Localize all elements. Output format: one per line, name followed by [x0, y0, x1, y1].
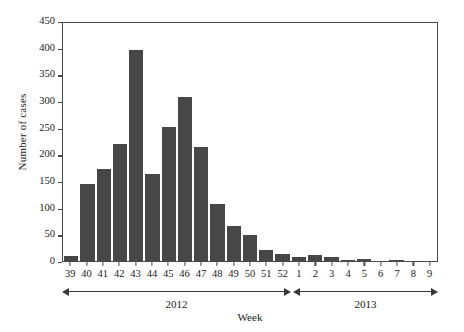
x-tick-label: 49: [228, 268, 239, 279]
bar: [177, 97, 193, 261]
x-tick-mark: [282, 262, 283, 266]
x-tick-label: 40: [81, 268, 92, 279]
x-tick-mark: [233, 262, 234, 266]
bar-slot: [79, 23, 95, 261]
y-tick: 50: [0, 235, 62, 236]
bar-slot: [96, 23, 112, 261]
x-tick-mark: [266, 262, 267, 266]
bar-slot: [323, 23, 339, 261]
x-tick: 5: [356, 262, 372, 284]
x-tick: 49: [225, 262, 241, 284]
bar-slot: [388, 23, 404, 261]
x-tick-mark: [364, 262, 365, 266]
x-tick-label: 47: [196, 268, 207, 279]
plot-area: [62, 22, 438, 262]
bar: [112, 144, 128, 261]
bar-slot: [421, 23, 437, 261]
y-tick: 0: [0, 262, 62, 263]
year-label-2013: 2013: [293, 298, 438, 310]
bar: [274, 254, 290, 261]
span-line: [299, 291, 432, 292]
bar-slot: [63, 23, 79, 261]
bar-slot: [242, 23, 258, 261]
x-tick: 2: [307, 262, 323, 284]
bar: [128, 50, 144, 261]
bar: [193, 147, 209, 261]
x-tick: 6: [373, 262, 389, 284]
x-tick-mark: [396, 262, 397, 266]
x-tick: 9: [422, 262, 438, 284]
y-tick: 100: [0, 209, 62, 210]
bar: [323, 257, 339, 261]
bar-slot: [226, 23, 242, 261]
x-tick-label: 41: [98, 268, 109, 279]
x-tick-mark: [249, 262, 250, 266]
x-tick-label: 50: [245, 268, 256, 279]
bar-slot: [356, 23, 372, 261]
bar-slot: [274, 23, 290, 261]
x-tick-label: 42: [114, 268, 125, 279]
x-tick: 43: [127, 262, 143, 284]
arrow-right-icon: [284, 288, 291, 296]
bar-slot: [144, 23, 160, 261]
x-tick-label: 44: [147, 268, 158, 279]
x-tick: 39: [62, 262, 78, 284]
y-tick: 450: [0, 22, 62, 23]
x-tick: 3: [324, 262, 340, 284]
x-tick-label: 48: [212, 268, 223, 279]
x-tick: 42: [111, 262, 127, 284]
y-tick: 300: [0, 102, 62, 103]
x-tick-mark: [86, 262, 87, 266]
bar-slot: [340, 23, 356, 261]
bar: [209, 204, 225, 261]
y-tick: 150: [0, 182, 62, 183]
x-tick: 40: [78, 262, 94, 284]
bar: [258, 250, 274, 261]
bar-slot: [128, 23, 144, 261]
y-tick-label: 300: [39, 95, 55, 106]
x-tick-label: 4: [345, 268, 350, 279]
y-tick-label: 50: [45, 228, 56, 239]
year-label-2012: 2012: [62, 298, 291, 310]
y-tick: 250: [0, 129, 62, 130]
bar-slot: [291, 23, 307, 261]
x-tick: 4: [340, 262, 356, 284]
y-tick: 400: [0, 49, 62, 50]
x-tick-label: 9: [427, 268, 432, 279]
x-tick-mark: [102, 262, 103, 266]
y-tick-label: 450: [39, 15, 55, 26]
y-tick-label: 400: [39, 42, 55, 53]
x-tick: 50: [242, 262, 258, 284]
y-tick-label: 350: [39, 68, 55, 79]
y-tick: 200: [0, 155, 62, 156]
x-tick-mark: [380, 262, 381, 266]
x-tick-label: 6: [378, 268, 383, 279]
chart-figure: Number of cases 050100150200250300350400…: [0, 0, 464, 332]
x-tick: 46: [176, 262, 192, 284]
bar: [242, 235, 258, 261]
x-tick-mark: [298, 262, 299, 266]
bar: [291, 257, 307, 261]
y-tick-label: 0: [50, 255, 55, 266]
x-tick-mark: [119, 262, 120, 266]
bar: [356, 259, 372, 261]
x-tick-label: 2: [313, 268, 318, 279]
x-axis-title: Week: [62, 311, 438, 323]
x-tick-mark: [200, 262, 201, 266]
x-tick: 1: [291, 262, 307, 284]
x-tick-mark: [217, 262, 218, 266]
x-tick: 45: [160, 262, 176, 284]
bar: [388, 260, 404, 261]
bar-slot: [405, 23, 421, 261]
x-tick-mark: [413, 262, 414, 266]
bar: [96, 169, 112, 261]
x-tick-mark: [168, 262, 169, 266]
x-tick-mark: [331, 262, 332, 266]
x-tick: 51: [258, 262, 274, 284]
x-tick-mark: [151, 262, 152, 266]
bar-series: [63, 23, 437, 261]
x-tick-label: 7: [394, 268, 399, 279]
x-tick: 48: [209, 262, 225, 284]
y-tick-label: 250: [39, 122, 55, 133]
x-tick: 41: [95, 262, 111, 284]
